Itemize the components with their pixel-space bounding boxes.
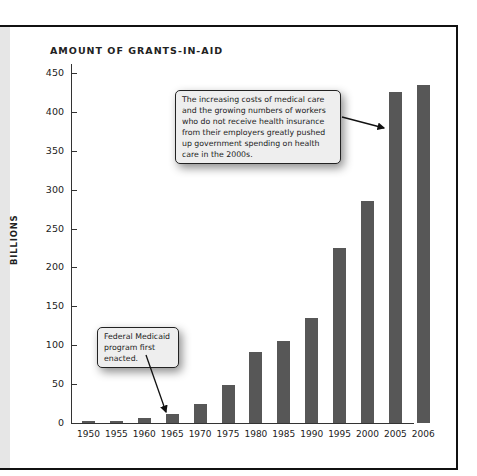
x-tick-label: 1960 <box>129 429 159 439</box>
bar-2000 <box>361 201 374 423</box>
x-tick-label: 1970 <box>185 429 215 439</box>
y-tick-mark <box>72 190 77 191</box>
x-tick-label: 1965 <box>157 429 187 439</box>
y-tick-mark <box>72 229 77 230</box>
bar-1950 <box>82 421 95 423</box>
y-tick-label: 450 <box>34 67 64 78</box>
y-tick-mark <box>72 423 77 424</box>
x-tick-label: 1995 <box>325 429 355 439</box>
x-tick-label: 2005 <box>380 429 410 439</box>
bar-1960 <box>138 418 151 423</box>
y-axis-label: BILLIONS <box>9 215 19 266</box>
y-tick-label: 350 <box>34 145 64 156</box>
chart-title: AMOUNT OF GRANTS-IN-AID <box>50 45 223 56</box>
y-axis <box>71 64 72 424</box>
y-tick-label: 250 <box>34 223 64 234</box>
y-tick-label: 150 <box>34 300 64 311</box>
x-tick-label: 1985 <box>269 429 299 439</box>
bar-1970 <box>194 404 207 423</box>
x-tick-label: 2000 <box>353 429 383 439</box>
bar-2006 <box>417 85 430 423</box>
y-tick-mark <box>72 306 77 307</box>
x-tick-label: 1955 <box>101 429 131 439</box>
y-tick-label: 100 <box>34 339 64 350</box>
x-tick-label: 2006 <box>408 429 438 439</box>
callout-medicaid: Federal Medicaid program first enacted. <box>97 327 179 368</box>
callout-medicaid-text: Federal Medicaid program first enacted. <box>104 332 170 363</box>
x-tick-label: 1950 <box>74 429 104 439</box>
callout-2000s: The increasing costs of medical care and… <box>175 90 341 164</box>
callout-2000s-text: The increasing costs of medical care and… <box>182 95 326 159</box>
bar-1995 <box>333 248 346 423</box>
bar-1985 <box>277 341 290 423</box>
y-tick-mark <box>72 345 77 346</box>
bar-1980 <box>249 352 262 423</box>
y-tick-mark <box>72 384 77 385</box>
x-tick-label: 1980 <box>241 429 271 439</box>
y-tick-label: 50 <box>34 378 64 389</box>
y-tick-label: 0 <box>34 417 64 428</box>
y-tick-mark <box>72 73 77 74</box>
chart-frame: AMOUNT OF GRANTS-IN-AID BILLIONS 0501001… <box>0 25 458 470</box>
x-tick-label: 1990 <box>297 429 327 439</box>
y-tick-mark <box>72 112 77 113</box>
bar-1955 <box>110 421 123 423</box>
bar-1990 <box>305 318 318 423</box>
bar-2005 <box>389 92 402 423</box>
bar-1975 <box>222 385 235 423</box>
y-tick-label: 200 <box>34 261 64 272</box>
bar-1965 <box>166 414 179 423</box>
x-tick-label: 1975 <box>213 429 243 439</box>
y-tick-mark <box>72 267 77 268</box>
y-tick-label: 400 <box>34 106 64 117</box>
y-tick-label: 300 <box>34 184 64 195</box>
x-axis <box>71 423 414 424</box>
y-tick-mark <box>72 151 77 152</box>
